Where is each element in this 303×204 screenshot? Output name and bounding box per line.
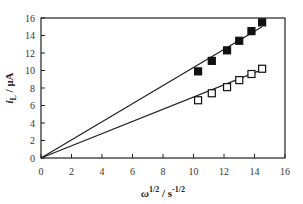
- x-tick-label: 2: [69, 166, 74, 177]
- open-square-marker: [208, 90, 215, 97]
- x-tick-label: 12: [219, 166, 229, 177]
- filled-square-marker: [259, 19, 266, 26]
- filled-square-marker: [248, 28, 255, 35]
- open-square-marker: [236, 77, 243, 84]
- y-tick-label: 4: [30, 118, 35, 129]
- data-points: [195, 19, 266, 104]
- y-tick-label: 6: [30, 100, 35, 111]
- y-axis-title: iL / μA: [3, 72, 18, 103]
- x-tick-label: 16: [280, 166, 290, 177]
- chart-svg: 0246810121416 0246810121416 ω1/2 / s-1/2…: [0, 0, 303, 204]
- x-axis-title: ω1/2 / s-1/2: [141, 185, 185, 199]
- y-tick-label: 10: [25, 65, 35, 76]
- filled-square-marker: [224, 47, 231, 54]
- x-tick-label: 14: [250, 166, 260, 177]
- x-tick-label: 6: [130, 166, 135, 177]
- open-square-marker: [224, 84, 231, 91]
- y-tick-label: 14: [25, 30, 35, 41]
- y-tick-label: 8: [30, 83, 35, 94]
- y-axis-ticks: 0246810121416: [25, 13, 45, 164]
- open-square-marker: [248, 71, 255, 78]
- x-tick-label: 10: [189, 166, 199, 177]
- x-tick-label: 4: [100, 166, 105, 177]
- open-square-marker: [195, 97, 202, 104]
- open-square-marker: [259, 65, 266, 72]
- x-tick-label: 8: [161, 166, 166, 177]
- x-tick-label: 0: [39, 166, 44, 177]
- y-tick-label: 16: [25, 13, 35, 24]
- fit-line: [41, 70, 262, 158]
- filled-square-marker: [208, 57, 215, 64]
- y-tick-label: 12: [25, 48, 35, 59]
- y-tick-label: 0: [30, 153, 35, 164]
- filled-square-marker: [236, 37, 243, 44]
- filled-square-marker: [195, 68, 202, 75]
- y-tick-label: 2: [30, 135, 35, 146]
